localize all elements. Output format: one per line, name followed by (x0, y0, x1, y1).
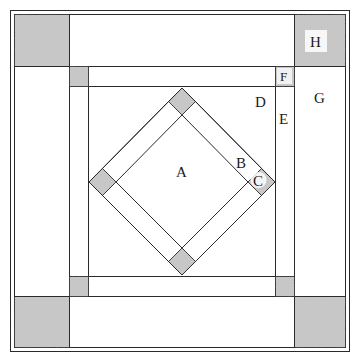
label-a: A (176, 164, 187, 180)
label-h: H (310, 34, 321, 50)
label-c: C (253, 173, 263, 189)
label-b: B (236, 155, 246, 171)
label-g: G (314, 90, 325, 106)
quilt-diagram: A B C D E F G H (0, 0, 358, 363)
label-f: F (280, 69, 287, 84)
center-diamond (89, 88, 275, 275)
label-e: E (279, 111, 288, 127)
label-d: D (255, 94, 266, 110)
corner-squares-large (15, 15, 346, 348)
